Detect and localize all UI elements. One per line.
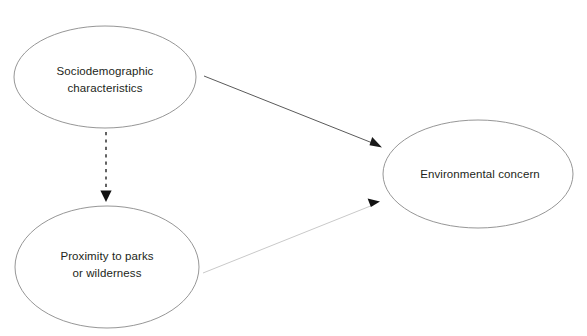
node-sociodemographic-characteristics[interactable]: Sociodemographic characteristics xyxy=(14,26,196,128)
edge-line xyxy=(203,205,373,273)
edge-proximity-to-environmental-concern xyxy=(203,199,380,273)
arrowhead-icon xyxy=(368,199,380,207)
arrowhead-icon xyxy=(100,191,111,202)
node-proximity-to-parks-or-wilderness[interactable]: Proximity to parks or wilderness xyxy=(15,206,199,328)
edge-sociodemographic-to-proximity xyxy=(100,132,111,202)
node-label-line2: characteristics xyxy=(68,82,143,94)
edge-line xyxy=(204,76,375,144)
node-label-line1: Environmental concern xyxy=(420,168,540,180)
diagram-figure: Sociodemographic characteristics Proximi… xyxy=(0,0,587,336)
node-label-line1: Sociodemographic xyxy=(57,65,154,77)
diagram-canvas: Sociodemographic characteristics Proximi… xyxy=(0,0,587,336)
node-label-line1: Proximity to parks xyxy=(60,250,153,262)
node-environmental-concern[interactable]: Environmental concern xyxy=(383,120,573,228)
edge-sociodemographic-to-environmental-concern xyxy=(204,76,382,148)
node-label-line2: or wilderness xyxy=(72,267,141,279)
arrowhead-icon xyxy=(370,137,383,148)
